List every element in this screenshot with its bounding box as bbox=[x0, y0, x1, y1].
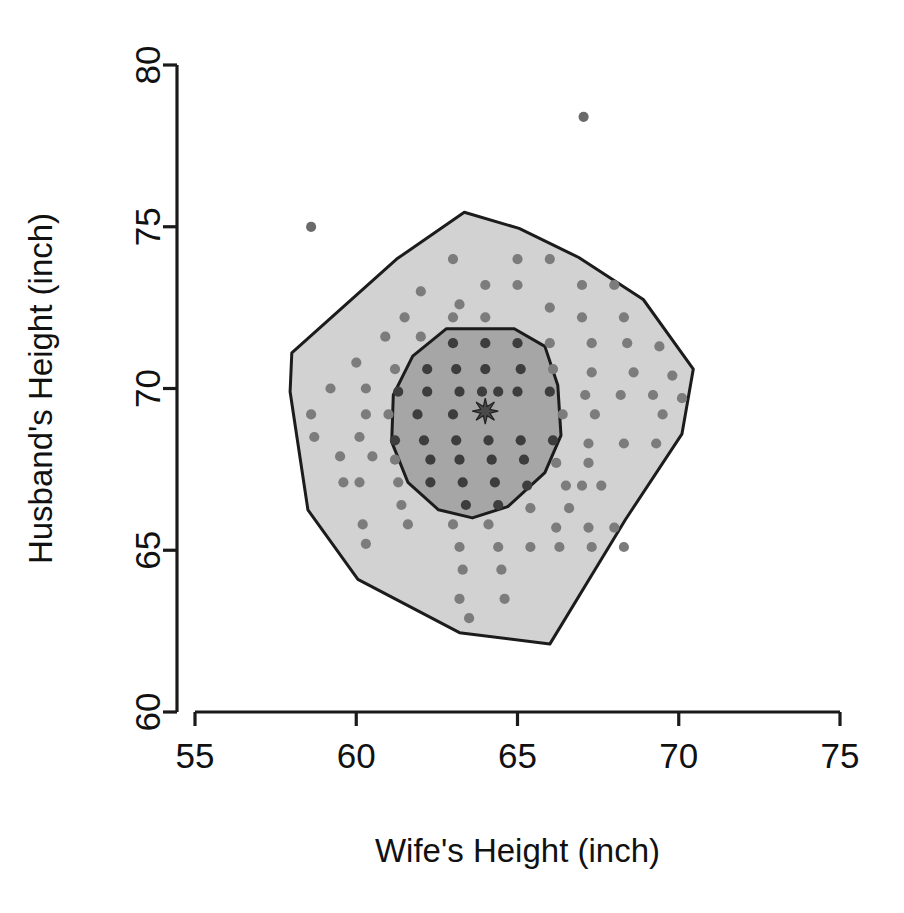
data-point bbox=[454, 594, 464, 604]
data-point bbox=[335, 451, 345, 461]
data-point bbox=[325, 383, 335, 393]
y-tick-label: 75 bbox=[128, 207, 167, 246]
data-point bbox=[487, 455, 497, 465]
data-point bbox=[545, 338, 555, 348]
data-point bbox=[458, 477, 468, 487]
data-point bbox=[390, 455, 400, 465]
data-point bbox=[396, 500, 406, 510]
data-point bbox=[512, 254, 522, 264]
data-point bbox=[512, 338, 522, 348]
data-point bbox=[493, 542, 503, 552]
data-point bbox=[393, 477, 403, 487]
data-point bbox=[480, 312, 490, 322]
y-tick-label: 60 bbox=[128, 693, 167, 732]
data-point bbox=[651, 438, 661, 448]
depth-median-star bbox=[472, 398, 498, 424]
data-point bbox=[416, 332, 426, 342]
data-point bbox=[351, 358, 361, 368]
data-point bbox=[338, 477, 348, 487]
data-point bbox=[493, 387, 503, 397]
data-point bbox=[458, 565, 468, 575]
data-point bbox=[490, 477, 500, 487]
data-point bbox=[361, 383, 371, 393]
data-point bbox=[425, 455, 435, 465]
data-point bbox=[493, 500, 503, 510]
data-point bbox=[419, 435, 429, 445]
outlier-point bbox=[306, 222, 316, 232]
data-point bbox=[558, 409, 568, 419]
data-point bbox=[587, 367, 597, 377]
data-point bbox=[451, 364, 461, 374]
data-point bbox=[522, 481, 532, 491]
data-point bbox=[619, 542, 629, 552]
data-point bbox=[548, 435, 558, 445]
data-point bbox=[400, 312, 410, 322]
data-point bbox=[448, 254, 458, 264]
data-point bbox=[609, 523, 619, 533]
y-tick-label: 80 bbox=[128, 46, 167, 85]
data-point bbox=[477, 387, 487, 397]
y-tick-label: 65 bbox=[128, 531, 167, 570]
data-point bbox=[403, 519, 413, 529]
data-point bbox=[425, 477, 435, 487]
data-point bbox=[309, 432, 319, 442]
data-point bbox=[545, 254, 555, 264]
data-point bbox=[422, 364, 432, 374]
data-point bbox=[577, 312, 587, 322]
data-point bbox=[380, 332, 390, 342]
data-point bbox=[629, 367, 639, 377]
data-point bbox=[512, 387, 522, 397]
data-point bbox=[609, 280, 619, 290]
data-point bbox=[461, 500, 471, 510]
plot-canvas: 55606570756065707580Wife's Height (inch)… bbox=[0, 0, 904, 913]
data-point bbox=[480, 280, 490, 290]
data-point bbox=[480, 338, 490, 348]
data-point bbox=[561, 481, 571, 491]
bagplot-figure: 55606570756065707580Wife's Height (inch)… bbox=[0, 0, 904, 913]
data-point bbox=[525, 503, 535, 513]
data-point bbox=[454, 455, 464, 465]
data-point bbox=[358, 519, 368, 529]
data-point bbox=[361, 539, 371, 549]
x-axis-title: Wife's Height (inch) bbox=[375, 832, 660, 869]
data-point bbox=[545, 303, 555, 313]
data-point bbox=[354, 477, 364, 487]
data-point bbox=[448, 312, 458, 322]
x-tick-label: 75 bbox=[821, 736, 860, 775]
data-point bbox=[390, 435, 400, 445]
data-point bbox=[516, 435, 526, 445]
x-tick-label: 70 bbox=[659, 736, 698, 775]
data-point bbox=[583, 523, 593, 533]
data-point bbox=[416, 286, 426, 296]
data-point bbox=[354, 432, 364, 442]
data-point bbox=[619, 438, 629, 448]
data-point bbox=[648, 390, 658, 400]
data-point bbox=[496, 565, 506, 575]
data-point bbox=[580, 390, 590, 400]
data-point bbox=[577, 280, 587, 290]
y-tick-label: 70 bbox=[128, 369, 167, 408]
data-point bbox=[383, 409, 393, 419]
data-point bbox=[548, 364, 558, 374]
data-point bbox=[451, 435, 461, 445]
data-point bbox=[587, 338, 597, 348]
data-point bbox=[564, 503, 574, 513]
data-point bbox=[448, 519, 458, 529]
data-point bbox=[587, 542, 597, 552]
data-point bbox=[583, 458, 593, 468]
data-point bbox=[516, 364, 526, 374]
data-point bbox=[554, 542, 564, 552]
data-point bbox=[654, 341, 664, 351]
data-point bbox=[616, 390, 626, 400]
x-tick-label: 60 bbox=[337, 736, 376, 775]
data-point bbox=[454, 387, 464, 397]
data-point bbox=[454, 299, 464, 309]
data-point bbox=[622, 338, 632, 348]
data-point bbox=[551, 458, 561, 468]
data-point bbox=[596, 481, 606, 491]
data-point bbox=[512, 280, 522, 290]
data-point bbox=[480, 364, 490, 374]
depth-median-marker bbox=[472, 398, 498, 424]
data-point bbox=[454, 542, 464, 552]
data-point bbox=[448, 409, 458, 419]
